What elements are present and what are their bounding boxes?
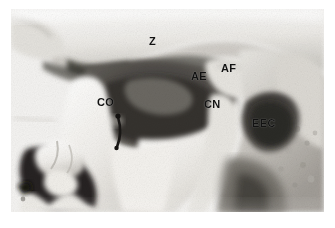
figure-root: Z AE AF CO CN EEC [0, 0, 335, 228]
photograph-plate [11, 9, 324, 212]
specimen-photograph [11, 9, 324, 212]
